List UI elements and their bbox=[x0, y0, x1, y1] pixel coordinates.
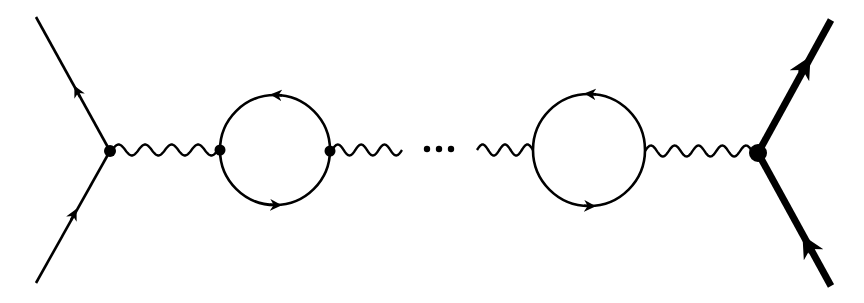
photon-line-2 bbox=[332, 145, 402, 156]
loop-1-left-vertex-dot bbox=[215, 145, 226, 156]
fermion-loop-2 bbox=[533, 94, 645, 206]
photon-line-4 bbox=[645, 146, 752, 157]
photon-lines bbox=[112, 145, 752, 157]
right-vertex-dot bbox=[749, 144, 767, 162]
feynman-diagram bbox=[0, 0, 864, 303]
ellipsis bbox=[424, 146, 454, 152]
left-incoming-arrow bbox=[71, 214, 74, 220]
right-outgoing-heavy-line bbox=[758, 20, 831, 153]
right-incoming-heavy-line bbox=[758, 153, 831, 286]
loop-1-right-vertex-dot bbox=[325, 146, 336, 157]
left-vertex-dot bbox=[104, 145, 116, 157]
right-outgoing-arrow bbox=[801, 66, 805, 73]
right-incoming-arrow bbox=[808, 245, 812, 252]
left-outgoing-fermion-line bbox=[36, 17, 110, 151]
left-fermion-lines bbox=[36, 17, 110, 283]
ellipsis-dot bbox=[448, 146, 454, 152]
ellipsis-dot bbox=[436, 146, 442, 152]
fermion-loop-1 bbox=[220, 95, 330, 205]
left-outgoing-arrow bbox=[77, 91, 80, 97]
right-fermion-lines bbox=[758, 20, 831, 286]
photon-line-3 bbox=[477, 145, 533, 156]
photon-line-1 bbox=[112, 145, 218, 156]
ellipsis-dot bbox=[424, 146, 430, 152]
loop-1-circle bbox=[220, 95, 330, 205]
loop-2-circle bbox=[533, 94, 645, 206]
